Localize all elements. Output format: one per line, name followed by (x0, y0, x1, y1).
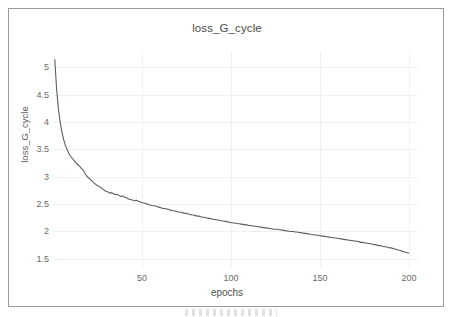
plot-area: 1.522.533.544.55 50100150200 (53, 51, 418, 267)
y-tick-label: 4.5 (36, 90, 49, 100)
x-tick-label: 100 (224, 273, 239, 283)
y-tick-label: 3 (44, 172, 49, 182)
page-title: loss_G_cycle (9, 22, 445, 34)
y-tick-label: 3.5 (36, 144, 49, 154)
x-tick-label: 200 (402, 273, 417, 283)
y-axis-title: loss_G_cycle (19, 90, 30, 180)
y-tick-label: 2 (44, 226, 49, 236)
loss-curve-line (53, 51, 418, 267)
x-axis-title: epochs (9, 287, 445, 298)
cropped-caption-sliver (185, 309, 277, 316)
x-tick-label: 150 (313, 273, 328, 283)
y-tick-label: 2.5 (36, 199, 49, 209)
x-tick-label: 50 (137, 273, 147, 283)
y-tick-label: 1.5 (36, 254, 49, 264)
y-tick-label: 4 (44, 117, 49, 127)
y-tick-label: 5 (44, 62, 49, 72)
figure-frame: loss_G_cycle loss_G_cycle 1.522.533.544.… (8, 8, 444, 307)
